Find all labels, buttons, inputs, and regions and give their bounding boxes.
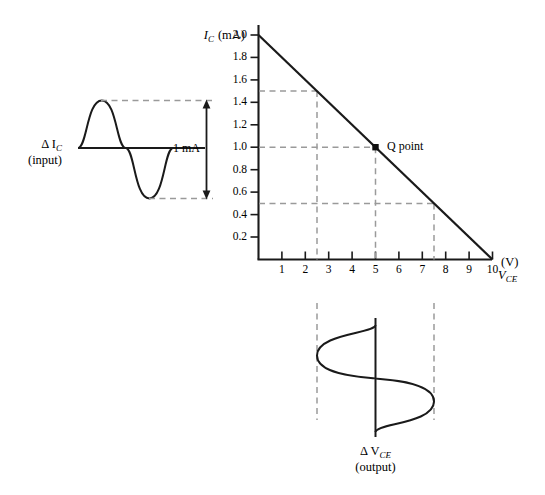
- y-tick-label-1.4: 1.4: [233, 95, 247, 108]
- x-tick-label-3: 3: [326, 263, 332, 276]
- output-waveform-symbol-row: Δ VCE: [355, 444, 395, 460]
- input-waveform-subscript: C: [56, 143, 62, 153]
- y-axis-title: IC(mA): [204, 28, 245, 44]
- y-axis-ticks: [251, 35, 259, 237]
- q-point-label: Q point: [387, 140, 423, 153]
- figure-canvas: [0, 0, 545, 495]
- x-tick-label-10: 10: [487, 263, 499, 276]
- x-axis-title: VCE: [498, 268, 517, 284]
- x-axis-ticks: [282, 252, 493, 260]
- y-tick-label-0.4: 0.4: [233, 208, 247, 221]
- y-tick-label-0.8: 0.8: [233, 163, 247, 176]
- x-tick-label-6: 6: [396, 263, 402, 276]
- y-tick-label-1.0: 1.0: [233, 140, 247, 153]
- output-waveform-symbol: Δ V: [360, 444, 380, 458]
- y-tick-label-0.6: 0.6: [233, 185, 247, 198]
- y-axis-title-unit: (mA): [218, 28, 245, 42]
- y-axis-title-subscript: C: [208, 34, 214, 44]
- input-waveform-caption: (input): [28, 153, 62, 167]
- x-axis-unit: (V): [501, 255, 518, 269]
- load-line-figure: 2.0 1.8 1.6 1.4 1.2 1.0 0.8 0.6 0.4 0.2 …: [0, 0, 545, 495]
- y-tick-label-1.8: 1.8: [233, 50, 247, 63]
- x-tick-label-7: 7: [419, 263, 425, 276]
- output-waveform-caption: (output): [355, 460, 395, 474]
- y-tick-label-0.2: 0.2: [233, 230, 247, 243]
- output-waveform-graphic: [317, 318, 434, 437]
- x-tick-label-5: 5: [373, 263, 379, 276]
- output-waveform-label: Δ VCE (output): [355, 444, 395, 474]
- one-ma-label: 1 mA: [173, 142, 200, 155]
- x-tick-label-9: 9: [466, 263, 472, 276]
- y-tick-label-1.6: 1.6: [233, 73, 247, 86]
- input-waveform-symbol: Δ I: [41, 137, 56, 151]
- x-tick-label-4: 4: [349, 263, 355, 276]
- x-axis-title-subscript: CE: [506, 274, 518, 284]
- output-waveform-subscript: CE: [380, 450, 392, 460]
- input-waveform-label: Δ IC (input): [28, 137, 62, 167]
- x-tick-label-2: 2: [302, 263, 308, 276]
- q-point-marker: [372, 144, 378, 150]
- input-waveform-symbol-row: Δ IC: [28, 137, 62, 153]
- y-tick-label-1.2: 1.2: [233, 118, 247, 131]
- x-axis-title-symbol: V: [498, 268, 506, 282]
- x-tick-label-8: 8: [443, 263, 449, 276]
- one-ma-arrow: [203, 100, 211, 200]
- x-tick-label-1: 1: [279, 263, 285, 276]
